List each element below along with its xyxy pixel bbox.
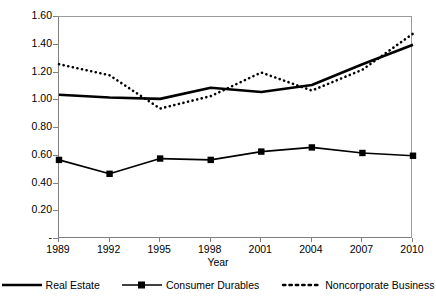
y-axis-tick-label: 0.60 xyxy=(6,149,52,160)
dotted-line-icon xyxy=(281,279,321,291)
series-consumer-durables-marker xyxy=(208,157,214,163)
y-axis-tick-label: - xyxy=(6,232,52,243)
y-axis-tick-label: 1.60 xyxy=(6,10,52,21)
x-axis-tick-label: 1992 xyxy=(81,243,137,255)
series-consumer-durables-marker xyxy=(106,171,112,177)
legend-label: Noncorporate Business xyxy=(325,279,434,291)
x-axis-tick-label: 1989 xyxy=(30,243,86,255)
legend-item-noncorporate-business[interactable]: Noncorporate Business xyxy=(281,279,434,291)
x-axis-tick-label: 2010 xyxy=(384,243,436,255)
series-layer xyxy=(59,17,413,239)
x-axis-tick-mark xyxy=(159,238,160,242)
series-consumer-durables-marker xyxy=(359,150,365,156)
x-axis-tick-mark xyxy=(109,238,110,242)
series-consumer-durables-marker xyxy=(56,157,62,163)
x-axis-tick-mark xyxy=(210,238,211,242)
x-axis-tick-mark xyxy=(361,238,362,242)
series-consumer-durables xyxy=(56,144,416,177)
x-axis-tick-label: 2001 xyxy=(232,243,288,255)
series-real-estate-line xyxy=(59,45,413,99)
series-real-estate xyxy=(59,45,413,99)
x-axis-title: Year xyxy=(0,256,436,268)
x-axis-tick-label: 2007 xyxy=(333,243,389,255)
solid-line-icon xyxy=(2,279,42,291)
legend-item-real-estate[interactable]: Real Estate xyxy=(2,279,100,291)
line-with-square-marker-icon xyxy=(122,279,162,291)
y-axis-tick-label: 0.20 xyxy=(6,204,52,215)
y-axis-tick-label: 1.40 xyxy=(6,38,52,49)
x-axis-tick-label: 1998 xyxy=(182,243,238,255)
series-consumer-durables-marker xyxy=(258,148,264,154)
series-consumer-durables-marker xyxy=(157,155,163,161)
legend-label: Consumer Durables xyxy=(166,279,259,291)
plot-area xyxy=(58,16,412,238)
x-axis-tick-mark xyxy=(58,238,59,242)
legend-item-consumer-durables[interactable]: Consumer Durables xyxy=(122,279,259,291)
y-axis-tick-label: 0.40 xyxy=(6,177,52,188)
x-axis-tick-label: 2004 xyxy=(283,243,339,255)
y-axis-tick-label: 1.00 xyxy=(6,93,52,104)
line-chart: 1.601.401.201.000.800.600.400.20- 198919… xyxy=(0,0,436,303)
series-consumer-durables-marker xyxy=(309,144,315,150)
series-consumer-durables-marker xyxy=(410,153,416,159)
x-axis-tick-mark xyxy=(412,238,413,242)
x-axis-tick-mark xyxy=(311,238,312,242)
chart-legend: Real Estate Consumer Durables Noncorpora… xyxy=(0,274,436,296)
x-axis-tick-mark xyxy=(260,238,261,242)
y-axis-tick-label: 0.80 xyxy=(6,121,52,132)
x-axis-tick-label: 1995 xyxy=(131,243,187,255)
legend-label: Real Estate xyxy=(46,279,100,291)
y-axis-tick-label: 1.20 xyxy=(6,66,52,77)
